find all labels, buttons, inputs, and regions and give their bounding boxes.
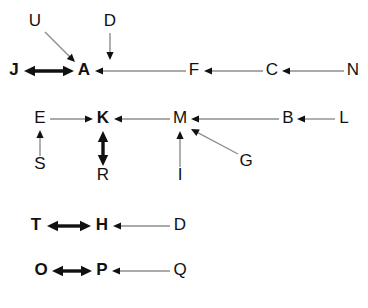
node-label-T: T (31, 215, 42, 234)
edge-layer (24, 32, 344, 276)
node-label-L: L (339, 108, 348, 127)
arrowhead-J-A-start (24, 66, 35, 76)
node-label-U: U (29, 11, 41, 30)
node-label-C: C (266, 60, 278, 79)
arrowhead-F-A-end (95, 67, 103, 74)
node-label-O: O (34, 260, 47, 279)
arrowhead-N-C-end (282, 67, 290, 74)
arrowhead-J-A-end (63, 66, 74, 76)
arrowhead-T-H-start (47, 221, 58, 231)
node-label-P: P (96, 260, 107, 279)
node-label-J: J (9, 60, 18, 79)
node-label-M: M (173, 108, 187, 127)
diagram-svg: UDJAFCNEKMBLSRIGTHDOPQ (0, 0, 368, 308)
node-layer: UDJAFCNEKMBLSRIGTHDOPQ (9, 11, 359, 279)
diagram-canvas: UDJAFCNEKMBLSRIGTHDOPQ (0, 0, 368, 308)
arrowhead-T-H-end (80, 221, 91, 231)
arrowhead-K-R-start (98, 131, 108, 142)
arrowhead-O-P-end (81, 266, 92, 276)
arrowhead-D1-A-end (106, 52, 113, 60)
node-label-D1: D (104, 11, 116, 30)
arrowhead-O-P-start (52, 266, 63, 276)
node-label-K: K (97, 108, 110, 127)
arrowhead-Q-P-end (112, 267, 120, 274)
node-label-A: A (78, 60, 90, 79)
arrowhead-E-K-end (85, 115, 93, 122)
node-label-B: B (282, 108, 293, 127)
arrowhead-I-M-end (176, 131, 183, 139)
node-label-Q: Q (173, 260, 186, 279)
node-label-F: F (189, 60, 199, 79)
node-label-N: N (347, 60, 359, 79)
edge-G-M-line (196, 132, 238, 154)
node-label-R: R (97, 165, 109, 184)
edge-U-A-line (45, 32, 71, 58)
node-label-E: E (34, 108, 45, 127)
node-label-S: S (34, 154, 45, 173)
arrowhead-D2-H-end (113, 222, 121, 229)
arrowhead-C-F-end (204, 67, 212, 74)
arrowhead-L-B-end (297, 115, 305, 122)
arrowhead-K-R-end (98, 155, 108, 166)
arrowhead-B-M-end (191, 115, 199, 122)
node-label-D2: D (174, 215, 186, 234)
node-label-G: G (239, 151, 252, 170)
arrowhead-S-E-end (36, 130, 43, 138)
node-label-I: I (178, 165, 183, 184)
arrowhead-M-K-end (114, 115, 122, 122)
node-label-H: H (96, 215, 108, 234)
